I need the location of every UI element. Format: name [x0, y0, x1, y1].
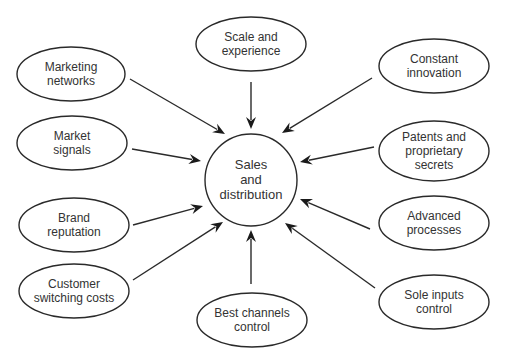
label-line: control	[234, 320, 270, 334]
label-line: signals	[53, 143, 90, 157]
arrow-best-channels-control	[246, 230, 256, 284]
label-line: Sole inputs	[404, 288, 463, 302]
arrow-brand-reputation	[133, 204, 203, 225]
arrowhead-icon	[285, 223, 298, 234]
arrow-advanced-processes	[300, 199, 370, 229]
label-line: Market	[54, 129, 91, 143]
arrow-shaft	[309, 147, 374, 160]
label-line: and	[240, 172, 262, 187]
arrow-shaft	[290, 78, 372, 128]
node-label: Scale andexperience	[222, 30, 281, 58]
label-line: Brand	[58, 211, 90, 225]
label-line: processes	[407, 223, 462, 237]
label-line: proprietary	[405, 144, 462, 158]
center-node: Salesanddistribution	[205, 134, 297, 226]
node-label: Marketingnetworks	[45, 60, 98, 88]
label-line: control	[416, 302, 452, 316]
arrow-customer-switching-costs	[133, 222, 223, 280]
node-label: Marketsignals	[53, 129, 91, 157]
arrow-patents-and-proprietary-secrets	[300, 147, 374, 165]
label-line: switching costs	[34, 291, 115, 305]
arrowhead-icon	[212, 124, 225, 134]
label-line: innovation	[407, 66, 462, 80]
node-advanced-processes: Advancedprocesses	[379, 196, 489, 250]
label-line: Patents and	[402, 130, 466, 144]
sales-distribution-diagram: MarketingnetworksScale andexperienceCons…	[0, 0, 505, 359]
node-constant-innovation: Constantinnovation	[379, 39, 489, 93]
arrow-constant-innovation	[282, 78, 372, 133]
node-brand-reputation: Brandreputation	[19, 198, 129, 252]
node-customer-switching-costs: Customerswitching costs	[19, 264, 129, 318]
arrow-shaft	[292, 228, 375, 288]
arrow-sole-inputs-control	[285, 223, 375, 288]
arrow-market-signals	[132, 149, 201, 164]
label-line: Best channels	[214, 306, 289, 320]
label-line: distribution	[220, 187, 283, 202]
node-market-signals: Marketsignals	[17, 116, 127, 170]
label-line: Sales	[235, 157, 268, 172]
node-label: Constantinnovation	[407, 52, 462, 80]
arrow-shaft	[133, 208, 194, 225]
label-line: networks	[47, 74, 95, 88]
arrow-marketing-networks	[130, 79, 225, 134]
label-line: Scale and	[224, 30, 277, 44]
arrow-shaft	[130, 79, 217, 129]
arrowhead-icon	[210, 222, 223, 233]
label-line: Customer	[48, 277, 100, 291]
node-scale-and-experience: Scale andexperience	[196, 17, 306, 71]
arrowhead-icon	[282, 123, 295, 134]
node-sole-inputs-control: Sole inputscontrol	[379, 275, 489, 329]
label-line: Marketing	[45, 60, 98, 74]
arrow-shaft	[132, 149, 192, 159]
node-marketing-networks: Marketingnetworks	[17, 47, 125, 101]
node-label: Advancedprocesses	[407, 209, 462, 237]
node-patents-and-proprietary-secrets: Patents andproprietarysecrets	[379, 121, 489, 181]
arrow-scale-and-experience	[246, 82, 256, 129]
arrow-shaft	[308, 203, 370, 229]
label-line: secrets	[415, 158, 454, 172]
arrow-shaft	[133, 227, 215, 280]
node-best-channels-control: Best channelscontrol	[197, 293, 307, 347]
label-line: Advanced	[407, 209, 460, 223]
label-line: Constant	[410, 52, 459, 66]
label-line: reputation	[47, 225, 100, 239]
label-line: experience	[222, 44, 281, 58]
